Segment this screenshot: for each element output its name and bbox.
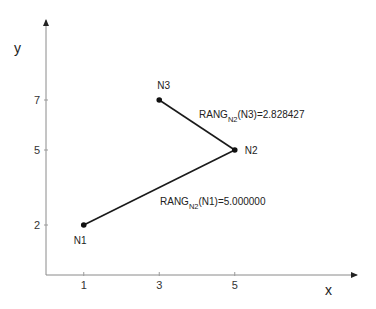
x-axis-label: x bbox=[325, 282, 332, 298]
rang-n3-annotation: RANGN2(N3)=2.828427 bbox=[199, 109, 305, 124]
node-n1-point bbox=[81, 222, 87, 228]
rang-n3-prefix: RANG bbox=[199, 109, 228, 120]
rang-n3-subscript: N2 bbox=[228, 115, 238, 124]
y-axis-label: y bbox=[14, 40, 21, 56]
x-tick-label: 3 bbox=[156, 279, 162, 291]
y-tick-label: 7 bbox=[34, 94, 40, 106]
x-tick-label: 1 bbox=[81, 279, 87, 291]
y-tick-label: 5 bbox=[34, 144, 40, 156]
node-n3-point bbox=[156, 97, 162, 103]
edge-n3-n2 bbox=[159, 100, 235, 150]
rang-n1-prefix: RANG bbox=[160, 196, 189, 207]
rang-n1-suffix: (N1)=5.000000 bbox=[199, 196, 266, 207]
edge-n1-n2 bbox=[84, 150, 235, 225]
rang-n1-subscript: N2 bbox=[189, 202, 199, 211]
axis-ticks: 135257 bbox=[34, 94, 238, 291]
node-n2-point bbox=[232, 147, 238, 153]
rang-n1-annotation: RANGN2(N1)=5.000000 bbox=[160, 196, 266, 211]
node-n3-label: N3 bbox=[157, 80, 170, 91]
node-n2-label: N2 bbox=[245, 145, 258, 156]
rang-n3-suffix: (N3)=2.828427 bbox=[238, 109, 305, 120]
node-n1-label: N1 bbox=[74, 235, 87, 246]
y-tick-label: 2 bbox=[34, 219, 40, 231]
x-tick-label: 5 bbox=[232, 279, 238, 291]
coordinate-diagram: y x 135257 N1N2N3 RANGN2(N3)=2.828427 RA… bbox=[0, 0, 376, 309]
